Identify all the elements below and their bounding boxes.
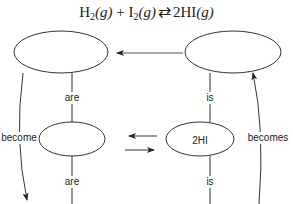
node-top-right (185, 31, 281, 73)
node-middle-right-text: 2HI (192, 135, 208, 146)
link-label-becomes: becomes (247, 132, 290, 144)
link-label-become: become (0, 132, 38, 144)
link-label-left-bottom: are (64, 176, 80, 188)
link-label-right-bottom: is (205, 176, 214, 188)
node-middle-left (39, 122, 105, 156)
concept-map (0, 0, 293, 204)
node-top-left (14, 31, 108, 73)
link-label-right-top: is (205, 92, 214, 104)
link-label-left-top: are (64, 92, 80, 104)
